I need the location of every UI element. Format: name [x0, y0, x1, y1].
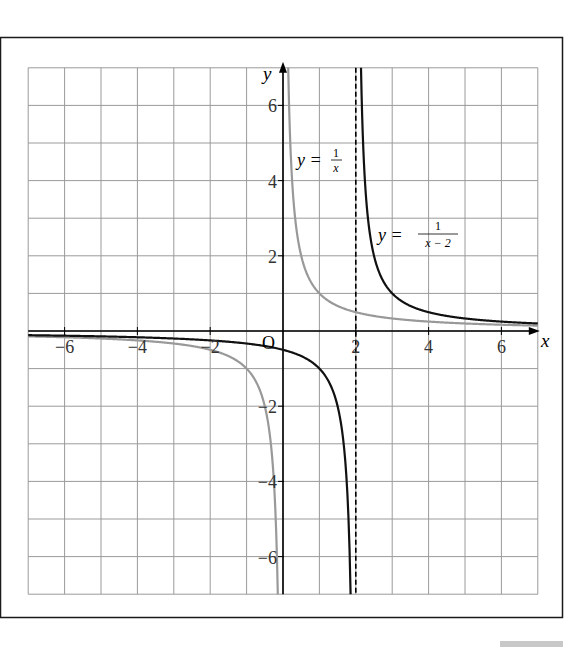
svg-text:y =: y = — [295, 150, 322, 170]
label-reciprocal: y = 1 x — [295, 146, 342, 175]
svg-text:−2: −2 — [201, 337, 220, 357]
svg-text:−4: −4 — [258, 472, 277, 492]
figure-border — [1, 38, 563, 618]
svg-text:−6: −6 — [55, 337, 74, 357]
svg-text:6: 6 — [268, 96, 277, 116]
x-axis-label: x — [540, 330, 550, 351]
origin-label: O — [262, 333, 275, 353]
bottom-bar — [500, 641, 563, 647]
svg-text:2: 2 — [268, 247, 277, 267]
svg-text:y =: y = — [376, 225, 403, 245]
label-shifted: y = 1 x − 2 — [376, 219, 458, 250]
axes — [28, 62, 540, 594]
graph-figure: −6−4−2246642−2−4−6 y x O y = 1 x y = 1 x… — [0, 0, 576, 648]
svg-text:1: 1 — [333, 146, 339, 160]
svg-text:2: 2 — [351, 337, 360, 357]
tick-labels: −6−4−2246642−2−4−6 — [55, 96, 506, 567]
svg-text:x − 2: x − 2 — [424, 236, 450, 250]
svg-text:1: 1 — [435, 219, 441, 233]
svg-text:−2: −2 — [258, 397, 277, 417]
svg-text:4: 4 — [268, 172, 277, 192]
y-axis-label: y — [261, 63, 272, 84]
svg-text:−4: −4 — [128, 337, 147, 357]
svg-text:x: x — [332, 161, 339, 175]
svg-text:4: 4 — [424, 337, 433, 357]
svg-text:−6: −6 — [258, 548, 277, 568]
svg-text:6: 6 — [497, 337, 506, 357]
